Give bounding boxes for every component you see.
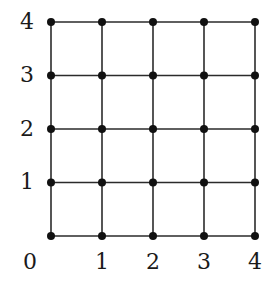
grid-vertex-4-0	[251, 232, 259, 240]
y-axis-tick-label-3: 3	[10, 64, 34, 86]
grid-vertex-3-2	[200, 125, 208, 133]
x-axis-tick-label-0: 0	[16, 251, 44, 273]
y-axis-tick-label-1: 1	[10, 171, 34, 193]
grid-vertex-1-2	[98, 125, 106, 133]
grid-vertex-3-4	[200, 18, 208, 26]
grid-vertex-1-4	[98, 18, 106, 26]
y-axis-tick-label-2: 2	[10, 118, 34, 140]
y-axis-tick-label-4: 4	[10, 11, 34, 33]
grid-vertex-2-0	[149, 232, 157, 240]
grid-vertex-4-3	[251, 72, 259, 80]
grid-vertex-2-4	[149, 18, 157, 26]
grid-vertex-0-2	[47, 125, 55, 133]
grid-vertex-4-1	[251, 179, 259, 187]
grid-vertex-2-3	[149, 72, 157, 80]
grid-vertex-4-2	[251, 125, 259, 133]
grid-vertex-1-3	[98, 72, 106, 80]
x-axis-tick-label-3: 3	[190, 251, 218, 273]
grid-vertex-4-4	[251, 18, 259, 26]
grid-vertex-0-0	[47, 232, 55, 240]
grid-vertex-0-1	[47, 179, 55, 187]
x-axis-tick-label-2: 2	[139, 251, 167, 273]
grid-vertex-0-4	[47, 18, 55, 26]
x-axis-tick-label-4: 4	[241, 251, 269, 273]
grid-vertex-2-2	[149, 125, 157, 133]
grid-vertex-0-3	[47, 72, 55, 80]
x-axis-tick-label-1: 1	[88, 251, 116, 273]
grid-vertex-3-0	[200, 232, 208, 240]
lattice-grid-plot	[0, 0, 279, 281]
grid-vertex-2-1	[149, 179, 157, 187]
grid-vertex-3-3	[200, 72, 208, 80]
grid-vertex-3-1	[200, 179, 208, 187]
grid-vertex-1-0	[98, 232, 106, 240]
lattice-grid-figure: 4 3 2 1 0 1 2 3 4	[0, 0, 279, 281]
grid-vertex-1-1	[98, 179, 106, 187]
